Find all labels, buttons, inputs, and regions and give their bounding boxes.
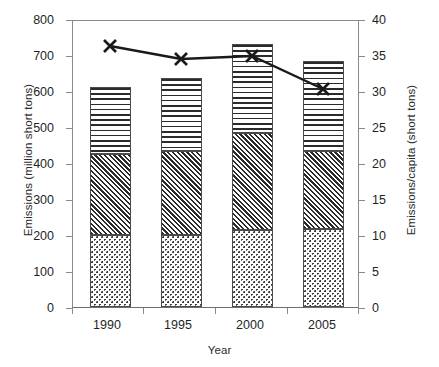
y-right-tickmark-20	[359, 164, 365, 165]
y-right-tickmark-0	[359, 308, 365, 309]
y-left-tick-500: 500	[14, 122, 54, 135]
bar-1990-segment-middle	[90, 154, 131, 235]
y-right-tickmark-5	[359, 272, 365, 273]
y-right-tick-0: 0	[372, 302, 412, 315]
y-right-tickmark-40	[359, 20, 365, 21]
y-right-tickmark-10	[359, 236, 365, 237]
chart-container: Emissions (million short tons) Emissions…	[0, 0, 439, 367]
y-right-tick-15: 15	[372, 194, 412, 207]
x-tick-label-1990: 1990	[72, 318, 142, 332]
bar-2005-segment-bottom	[303, 229, 344, 307]
plot-area	[72, 20, 359, 308]
x-axis-title: Year	[0, 344, 439, 356]
x-tick-label-1995: 1995	[143, 318, 213, 332]
bar-2000-segment-middle	[232, 133, 273, 230]
y-left-tick-800: 800	[14, 14, 54, 27]
y-right-tickmark-15	[359, 200, 365, 201]
bar-2005-segment-top	[303, 61, 344, 151]
x-tickmark-1	[143, 308, 144, 314]
bar-1995-segment-bottom	[161, 235, 202, 307]
y-left-tick-0: 0	[14, 302, 54, 315]
x-tick-label-2005: 2005	[287, 318, 357, 332]
y-left-tick-400: 400	[14, 158, 54, 171]
y-right-tick-10: 10	[372, 230, 412, 243]
x-tickmark-end	[358, 308, 359, 314]
y-right-tick-20: 20	[372, 158, 412, 171]
bar-1990-segment-top	[90, 87, 131, 154]
x-tick-label-2000: 2000	[215, 318, 285, 332]
y-left-tick-300: 300	[14, 194, 54, 207]
y-right-tick-30: 30	[372, 86, 412, 99]
y-right-tick-25: 25	[372, 122, 412, 135]
x-tickmark-start	[72, 308, 73, 314]
y-right-tick-35: 35	[372, 50, 412, 63]
bar-2005-segment-middle	[303, 151, 344, 229]
y-right-tick-40: 40	[372, 14, 412, 27]
bar-1995-segment-middle	[161, 151, 202, 235]
bar-1995-segment-top	[161, 78, 202, 151]
y-right-tick-5: 5	[372, 266, 412, 279]
y-left-tick-600: 600	[14, 86, 54, 99]
y-left-tick-700: 700	[14, 50, 54, 63]
y-right-tickmark-30	[359, 92, 365, 93]
y-right-tickmark-25	[359, 128, 365, 129]
x-tickmark-3	[287, 308, 288, 314]
bar-1990-segment-bottom	[90, 235, 131, 307]
bar-2000-segment-top	[232, 44, 273, 133]
y-left-tick-100: 100	[14, 266, 54, 279]
bar-2000-segment-bottom	[232, 230, 273, 307]
y-right-tickmark-35	[359, 56, 365, 57]
x-tickmark-2	[215, 308, 216, 314]
y-left-tick-200: 200	[14, 230, 54, 243]
